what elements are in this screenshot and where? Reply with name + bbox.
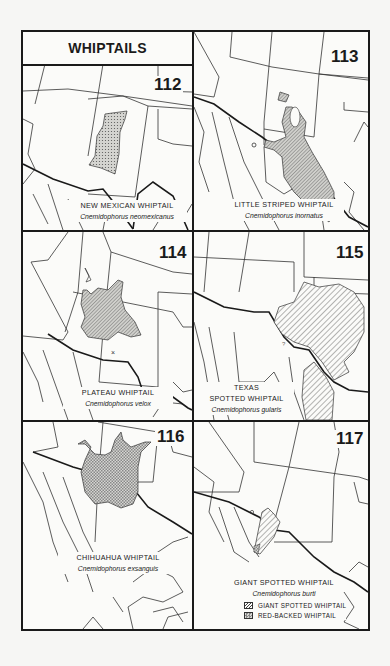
scientific-name: Cnemidophorus exsanguis [58, 563, 178, 574]
legend-label: RED-BACKED WHIPTAIL [258, 612, 336, 619]
legend-item-giant-spotted: GIANT SPOTTED WHIPTAIL [244, 600, 346, 610]
isolated-record-marker: × [111, 349, 115, 356]
column-divider [192, 32, 194, 629]
common-name: PLATEAU WHIPTAIL [63, 387, 173, 398]
legend-item-red-backed: RED-BACKED WHIPTAIL [244, 610, 346, 620]
map-caption: PLATEAU WHIPTAIL Cnemidophorus velox [63, 387, 173, 409]
map-caption: LITTLE STRIPED WHIPTAIL Cnemidophorus in… [224, 199, 344, 221]
map-caption: TEXAS SPOTTED WHIPTAIL Cnemidophorus gul… [199, 382, 294, 415]
map-panel-112: 112 NEW MEXICAN WHIPTAIL Cnemidophorus n… [23, 64, 192, 230]
map-caption: CHIHUAHUA WHIPTAIL Cnemidophorus exsangu… [58, 552, 178, 574]
scientific-name: Cnemidophorus velox [63, 398, 173, 409]
common-name-line1: TEXAS [199, 382, 294, 393]
common-name: LITTLE STRIPED WHIPTAIL [224, 199, 344, 210]
map-caption: NEW MEXICAN WHIPTAIL Cnemidophorus neome… [67, 200, 187, 222]
map-legend: GIANT SPOTTED WHIPTAIL RED-BACKED WHIPTA… [244, 600, 346, 620]
scientific-name: Cnemidophorus inornatus [224, 210, 344, 221]
map-number: 116 [155, 428, 186, 446]
scientific-name: Cnemidophorus neomexicanus [67, 211, 187, 222]
map-panel-115: ? 115 TEXAS SPOTTED WHIPTAIL Cnemidophor… [194, 232, 368, 420]
scientific-name: Cnemidophorus gularis [199, 404, 294, 415]
legend-label: GIANT SPOTTED WHIPTAIL [258, 602, 346, 609]
map-panel-113: ? 113 LITTLE STRIPED WHIPTAIL Cnemidopho… [194, 32, 368, 230]
range-map-plate: 112 NEW MEXICAN WHIPTAIL Cnemidophorus n… [21, 30, 370, 631]
common-name: GIANT SPOTTED WHIPTAIL [229, 577, 339, 588]
map-number: 112 [152, 76, 183, 94]
range-map-116 [23, 422, 192, 629]
common-name: NEW MEXICAN WHIPTAIL [67, 200, 187, 211]
map-panel-116: 116 CHIHUAHUA WHIPTAIL Cnemidophorus exs… [23, 422, 192, 629]
diagonal-hatch-swatch-icon [244, 602, 253, 609]
map-number: 115 [334, 244, 365, 262]
common-name: CHIHUAHUA WHIPTAIL [58, 552, 178, 563]
plate-title: WHIPTAILS [23, 32, 192, 66]
map-number: 114 [157, 244, 188, 262]
map-number: 113 [329, 48, 360, 66]
uncertain-record-marker: ? [282, 341, 286, 347]
crosshatch-swatch-icon [244, 612, 253, 619]
map-panel-117: 117 GIANT SPOTTED WHIPTAIL Cnemidophorus… [194, 422, 368, 629]
map-number: 117 [334, 430, 365, 448]
map-caption: GIANT SPOTTED WHIPTAIL Cnemidophorus bur… [229, 577, 339, 599]
scientific-name: Cnemidophorus burti [229, 588, 339, 599]
map-panel-114: × 114 PLATEAU WHIPTAIL Cnemidophorus vel… [23, 232, 192, 420]
plate-title-text: WHIPTAILS [68, 40, 147, 56]
common-name-line2: SPOTTED WHIPTAIL [199, 393, 294, 404]
